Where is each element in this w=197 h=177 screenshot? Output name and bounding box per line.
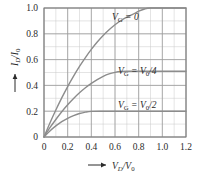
curve-annotations: VG = 0VG = V0/4VG = V0/2 <box>112 12 157 111</box>
x-tick-label: 1.0 <box>156 142 168 152</box>
curve-label-vg-0: VG = 0 <box>112 12 139 23</box>
x-axis-title-sub2: 0 <box>131 165 135 172</box>
x-tick-label: 0.8 <box>133 142 145 152</box>
arrow-up-icon-head <box>13 74 18 79</box>
y-tick-label: 0.8 <box>26 29 38 39</box>
curve-label-vg-v0-4: VG = V0/4 <box>118 66 157 77</box>
y-tick-label: 0.6 <box>26 55 38 65</box>
x-tick-label: 1.2 <box>180 142 192 152</box>
y-tick-label: 0 <box>33 132 38 142</box>
y-axis-title-sub2: 0 <box>14 48 21 52</box>
x-tick-label: 0.6 <box>109 142 121 152</box>
x-axis-tick-labels: 00.20.40.60.81.01.2 <box>42 142 193 152</box>
x-tick-label: 0.2 <box>62 142 74 152</box>
y-tick-label: 0.2 <box>26 107 38 117</box>
y-axis-tick-labels: 00.20.40.60.81.0 <box>26 3 38 142</box>
y-tick-label: 1.0 <box>26 3 38 13</box>
x-tick-label: 0 <box>42 142 47 152</box>
y-axis-title-text: ID/I0 <box>10 48 21 67</box>
x-axis-title-text: VD/V0 <box>112 161 135 172</box>
x-tick-label: 0.4 <box>85 142 97 152</box>
plot-svg: 00.20.40.60.81.01.2 00.20.40.60.81.0 VD/… <box>0 0 197 177</box>
arrow-right-icon-head <box>101 163 106 168</box>
y-tick-label: 0.4 <box>26 81 38 91</box>
y-axis-title: ID/I0 <box>10 48 21 92</box>
curve-label-vg-v0-2: VG = V0/2 <box>118 100 157 111</box>
iv-characteristics-figure: 00.20.40.60.81.01.2 00.20.40.60.81.0 VD/… <box>0 0 197 177</box>
x-axis-title: VD/V0 <box>88 161 135 172</box>
